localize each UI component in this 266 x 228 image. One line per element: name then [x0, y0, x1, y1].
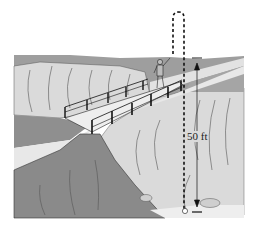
- bridge-canyon-illustration: [0, 0, 266, 228]
- rock-left: [140, 195, 152, 202]
- ball-icon: [182, 208, 187, 213]
- rock-right: [200, 199, 220, 208]
- height-label: 50 ft: [186, 131, 208, 142]
